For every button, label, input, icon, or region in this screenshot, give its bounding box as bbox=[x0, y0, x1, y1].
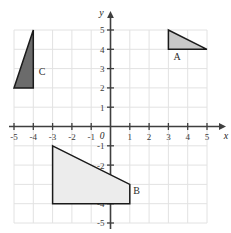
x-axis-label: x bbox=[223, 130, 229, 141]
shape-label-a: A bbox=[173, 51, 181, 62]
x-axis-tick-label: 2 bbox=[147, 132, 152, 142]
x-axis-tick-label: 3 bbox=[166, 132, 171, 142]
y-axis-tick-label: 5 bbox=[100, 25, 105, 35]
y-axis-tick-label: 1 bbox=[100, 103, 105, 113]
y-axis-tick-label: 4 bbox=[100, 45, 105, 55]
x-axis-tick-label: -5 bbox=[10, 132, 18, 142]
shape-label-c: C bbox=[39, 66, 46, 77]
x-axis-tick-label: -4 bbox=[30, 132, 38, 142]
x-axis-tick-label: 4 bbox=[185, 132, 190, 142]
shape-label-b: B bbox=[133, 185, 140, 196]
x-axis-tick-label: 5 bbox=[205, 132, 210, 142]
shape-c bbox=[14, 30, 33, 88]
x-axis-tick-label: 1 bbox=[128, 132, 133, 142]
y-axis-tick-label: -1 bbox=[97, 141, 105, 151]
x-axis-tick-label: -2 bbox=[68, 132, 76, 142]
origin-label: 0 bbox=[100, 131, 105, 141]
axis-names: xy0 bbox=[98, 7, 229, 141]
coordinate-plane-svg: -5-4-3-2-11234554321-1-2-3-4-5xy0ABC bbox=[0, 0, 231, 233]
x-axis-tick-label: -1 bbox=[87, 132, 95, 142]
y-axis-arrow bbox=[107, 11, 114, 18]
coordinate-plane-figure: -5-4-3-2-11234554321-1-2-3-4-5xy0ABC bbox=[0, 0, 231, 233]
y-axis-tick-label: 2 bbox=[100, 83, 105, 93]
y-axis-tick-label: -5 bbox=[97, 218, 105, 228]
y-axis-label: y bbox=[98, 7, 104, 18]
x-axis-tick-label: -3 bbox=[49, 132, 57, 142]
y-axis-tick-label: 3 bbox=[100, 64, 105, 74]
